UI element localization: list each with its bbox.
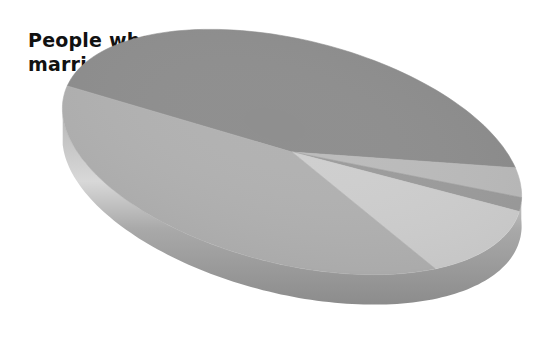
pie-chart: [0, 0, 547, 341]
